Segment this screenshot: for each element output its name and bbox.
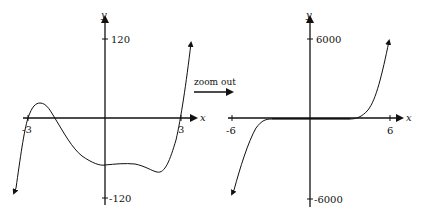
- left-ytick-label-120: 120: [111, 34, 130, 45]
- left-xtick-label-neg3: -3: [22, 124, 32, 135]
- right-ytick-label-6000: 6000: [316, 34, 341, 45]
- right-plot: x y -6 6 6000 -6000: [226, 9, 412, 207]
- right-curve: [234, 41, 389, 190]
- zoom-out-label: zoom out: [194, 77, 236, 87]
- right-curve-start-arrow: [232, 190, 234, 194]
- zoom-out-annotation: zoom out: [194, 77, 236, 92]
- left-curve: [16, 43, 191, 188]
- figure: x y -3 3 120 -120 zoom out x y -6 6: [0, 0, 422, 215]
- right-x-label: x: [406, 112, 412, 123]
- left-y-label: y: [100, 9, 107, 20]
- right-xtick-label-6: 6: [387, 125, 393, 136]
- left-ytick-label-neg120: -120: [109, 193, 131, 204]
- right-y-label: y: [305, 9, 312, 20]
- left-x-label: x: [200, 112, 206, 123]
- left-curve-start-arrow: [14, 188, 16, 193]
- right-ytick-label-neg6000: -6000: [314, 194, 343, 205]
- left-plot: x y -3 3 120 -120: [14, 9, 206, 205]
- right-xtick-label-neg6: -6: [226, 125, 236, 136]
